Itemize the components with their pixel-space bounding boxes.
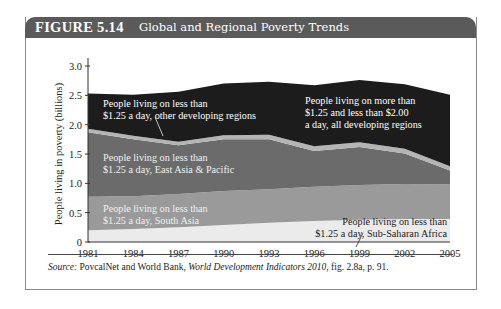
source-divider (48, 254, 453, 255)
y-tick-label: 0.5 (69, 208, 82, 219)
source-label: Source: (48, 262, 77, 272)
y-tick-label: 1.0 (69, 178, 82, 189)
y-axis-label: People living in poverty (billions) (53, 82, 65, 225)
y-tick-label: 2.0 (69, 120, 82, 131)
series-label-1: People living on less than (342, 216, 447, 227)
y-tick-label: 3.0 (69, 61, 82, 72)
series-label-3: $1.25 a day, East Asia & Pacific (103, 164, 235, 175)
series-label-1: $1.25 a day, Sub-Saharan Africa (315, 228, 447, 239)
series-label-2: $1.25 a day, South Asia (103, 215, 200, 226)
series-label-2: People living on less than (103, 203, 208, 214)
source-note: Source: PovcalNet and World Bank, World … (48, 262, 389, 272)
y-tick-label: 0 (77, 237, 82, 248)
source-text-end: , fig. 2.8a, p. 91. (326, 262, 388, 272)
source-italic: World Development Indicators 2010 (188, 262, 326, 272)
series-label-4: People living on less than (103, 98, 208, 109)
y-tick-label: 1.5 (69, 149, 82, 160)
series-label-5: a day, all developing regions (305, 119, 422, 130)
y-tick-label: 2.5 (69, 90, 82, 101)
source-text: PovcalNet and World Bank, (77, 262, 188, 272)
series-label-5: People living on more than (305, 95, 415, 106)
series-label-4: $1.25 a day, other developing regions (103, 110, 256, 121)
series-label-5: $1.25 and less than $2.00 (305, 107, 409, 118)
series-label-3: People living on less than (103, 152, 208, 163)
